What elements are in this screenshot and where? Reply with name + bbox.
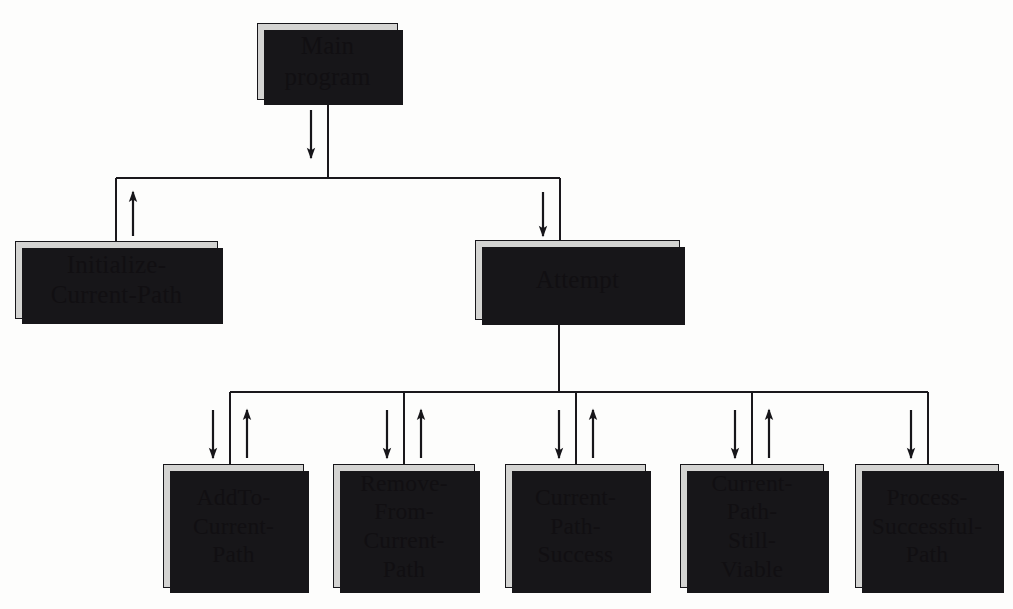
node-current-path-still-viable[interactable]: Current- Path- Still- Viable xyxy=(680,464,824,588)
node-remove-from-current-path[interactable]: Remove- From- Current- Path xyxy=(333,464,475,588)
node-initialize-current-path[interactable]: Initialize- Current-Path xyxy=(15,241,218,319)
node-current-path-still-viable-label: Current- Path- Still- Viable xyxy=(681,469,823,584)
node-main-program[interactable]: Main program xyxy=(257,23,398,100)
node-initialize-current-path-label: Initialize- Current-Path xyxy=(16,250,217,311)
node-main-program-label: Main program xyxy=(258,31,397,92)
node-add-to-current-path[interactable]: AddTo- Current- Path xyxy=(163,464,304,588)
node-current-path-success[interactable]: Current- Path- Success xyxy=(505,464,646,588)
node-add-to-current-path-label: AddTo- Current- Path xyxy=(164,483,303,569)
node-current-path-success-label: Current- Path- Success xyxy=(506,483,645,569)
node-attempt-label: Attempt xyxy=(476,265,679,296)
structure-chart-diagram: Main program Initialize- Current-Path At… xyxy=(0,0,1013,609)
node-process-successful-path-label: Process- Successful- Path xyxy=(856,483,998,569)
node-attempt[interactable]: Attempt xyxy=(475,240,680,320)
node-remove-from-current-path-label: Remove- From- Current- Path xyxy=(334,469,474,584)
node-process-successful-path[interactable]: Process- Successful- Path xyxy=(855,464,999,588)
